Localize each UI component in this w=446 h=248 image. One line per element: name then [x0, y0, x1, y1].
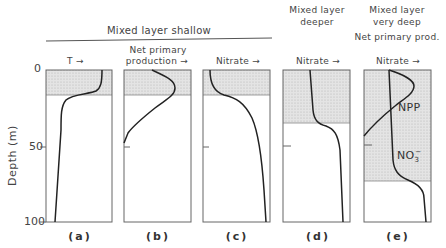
y-axis-label: Depth (m): [6, 125, 19, 186]
npp-label: NPP: [398, 101, 420, 114]
panel-e-header-3: Net primary prod.: [354, 32, 439, 42]
y-tick-50: 50: [29, 140, 43, 153]
mixed-layer-shade: [124, 70, 191, 95]
panel-d-header-1: Mixed layer: [289, 5, 344, 15]
panel-b: [124, 70, 191, 222]
panel-d-var-label: Nitrate →: [296, 56, 340, 66]
panel-e: [364, 70, 431, 222]
panel-e-letter: (e): [386, 230, 410, 243]
nitrate-label: NO3−: [397, 148, 421, 164]
group-header: Mixed layer shallow: [107, 25, 211, 36]
group-header-line: [46, 38, 272, 41]
arrow-right-icon: →: [252, 56, 260, 66]
y-tick-0: 0: [34, 62, 41, 75]
panel-d: [283, 70, 350, 222]
panel-b-var-label-1: Net primary: [129, 45, 186, 55]
panel-b-var-label-2: production →: [126, 56, 188, 66]
panel-c-letter: (c): [226, 230, 249, 243]
mixed-layer-shade: [203, 70, 270, 95]
panel-e-var-label: Nitrate →: [376, 56, 420, 66]
panel-e-header-2: very deep: [373, 17, 421, 27]
panel-c-var-label: Nitrate →: [216, 56, 260, 66]
panel-a-letter: (a): [68, 230, 91, 243]
panel-d-letter: (d): [306, 230, 330, 243]
panel-d-header-2: deeper: [300, 17, 334, 27]
panel-a: [40, 70, 112, 222]
arrow-right-icon: →: [180, 56, 188, 66]
arrow-right-icon: →: [332, 56, 340, 66]
panel-b-letter: (b): [146, 230, 170, 243]
mixed-layer-shade: [283, 70, 350, 123]
panel-e-header-1: Mixed layer: [369, 5, 424, 15]
arrow-right-icon: →: [76, 56, 84, 66]
y-tick-100: 100: [24, 215, 45, 228]
arrow-right-icon: →: [412, 56, 420, 66]
panel-c: [203, 70, 270, 222]
panel-a-var-label: T →: [67, 56, 84, 66]
